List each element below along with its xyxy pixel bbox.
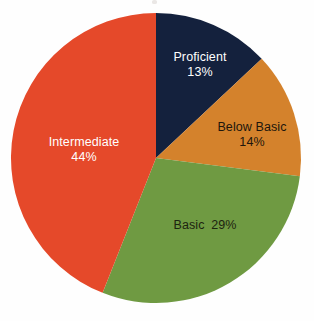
pie-chart: Proficient 13% Below Basic 14% Basic 29%… bbox=[0, 0, 314, 321]
pie-slice-group bbox=[11, 13, 301, 303]
pie-chart-svg bbox=[0, 0, 314, 321]
